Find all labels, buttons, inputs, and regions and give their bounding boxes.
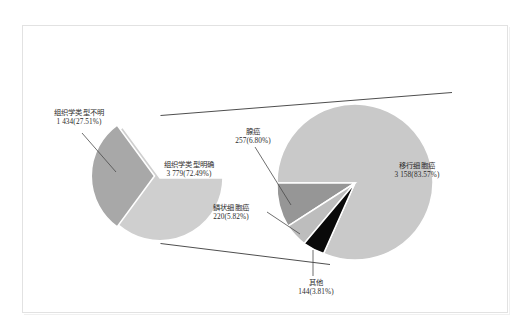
label-adenocarcinoma-name: 腺癌 [222,127,284,136]
label-adenocarcinoma: 腺癌 257(6.80%) [222,127,284,146]
label-known-histology: 组织学类型明确 3 779(72.49%) [152,160,226,179]
label-squamous-value: 220(5.82%) [196,212,266,221]
connector-line-bottom [161,244,331,265]
right-pie-group [277,104,433,260]
label-transitional-name: 移行细胞癌 [375,161,459,170]
label-squamous-cell-carcinoma: 鳞状细胞癌 220(5.82%) [196,203,266,222]
figure-canvas: 组织学类型不明 1 434(27.51%) 组织学类型明确 3 779(72.4… [0,0,530,333]
connector-line-top [161,93,453,116]
label-other-name: 其他 [285,278,347,287]
label-known-histology-value: 3 779(72.49%) [152,169,226,178]
label-unknown-histology: 组织学类型不明 1 434(27.51%) [33,108,125,127]
label-unknown-histology-value: 1 434(27.51%) [33,117,125,126]
label-unknown-histology-name: 组织学类型不明 [33,108,125,117]
label-other: 其他 144(3.81%) [285,278,347,297]
label-other-value: 144(3.81%) [285,287,347,296]
label-transitional-cell-carcinoma: 移行细胞癌 3 158(83.57%) [375,161,459,180]
label-squamous-name: 鳞状细胞癌 [196,203,266,212]
left-pie-group [91,125,223,241]
label-transitional-value: 3 158(83.57%) [375,170,459,179]
label-adenocarcinoma-value: 257(6.80%) [222,136,284,145]
label-known-histology-name: 组织学类型明确 [152,160,226,169]
